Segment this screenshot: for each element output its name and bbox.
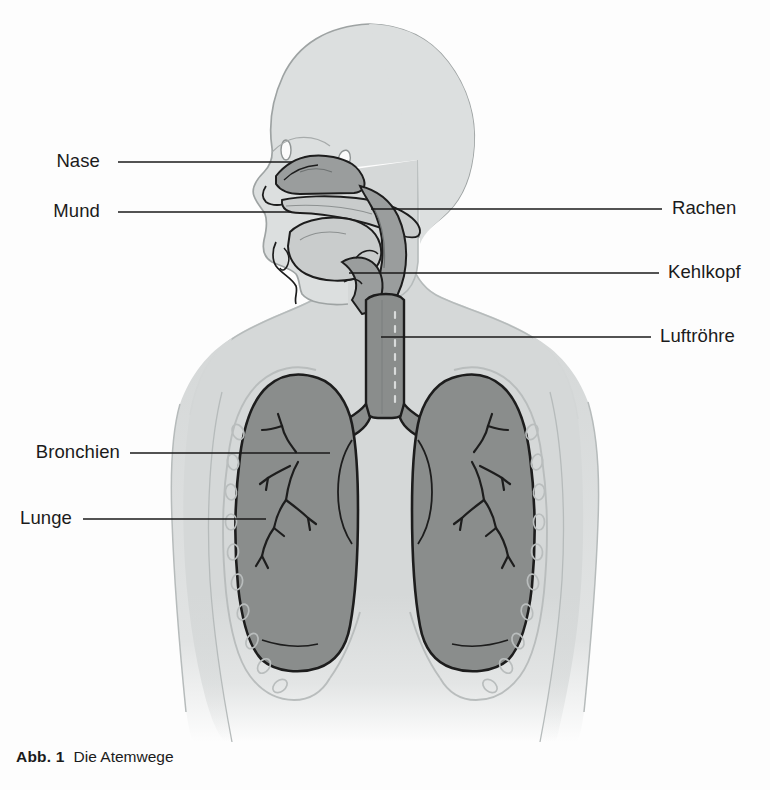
caption-number: Abb. 1 bbox=[16, 748, 65, 765]
right-lung bbox=[236, 375, 358, 672]
left-lung bbox=[412, 375, 534, 672]
figure-caption: Abb. 1Die Atemwege bbox=[16, 748, 174, 766]
label-kehlkopf: Kehlkopf bbox=[668, 263, 741, 282]
label-nase: Nase bbox=[0, 152, 100, 171]
trachea bbox=[366, 294, 404, 418]
label-lunge: Lunge bbox=[0, 509, 72, 528]
label-rachen: Rachen bbox=[672, 199, 736, 218]
caption-text: Die Atemwege bbox=[74, 748, 174, 765]
anatomy-illustration bbox=[0, 0, 770, 790]
label-luftroehre: Luftröhre bbox=[660, 327, 735, 346]
figure-respiratory-tract: NaseMundBronchienLungeRachenKehlkopfLuft… bbox=[0, 0, 770, 790]
label-bronchien: Bronchien bbox=[0, 443, 120, 462]
label-mund: Mund bbox=[0, 202, 100, 221]
